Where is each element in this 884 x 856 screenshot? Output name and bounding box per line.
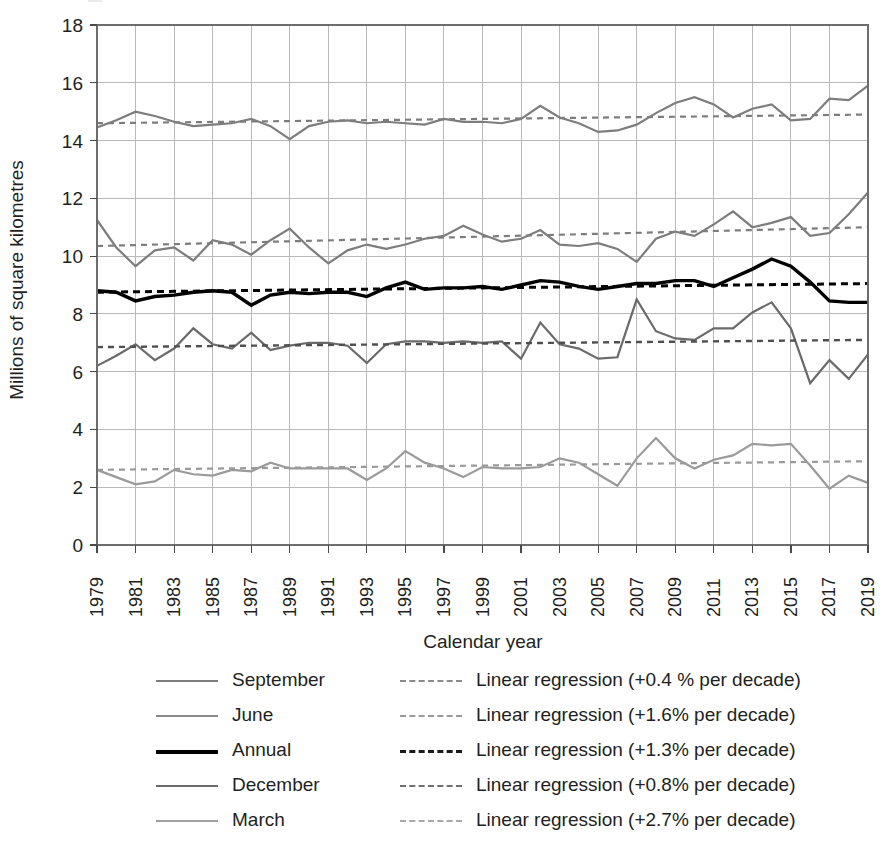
y-tick-label: 2 [72, 477, 83, 498]
x-tick-label: 1991 [318, 577, 338, 617]
legend-series-swatch [150, 673, 222, 687]
x-tick-label: 1983 [164, 577, 184, 617]
x-tick-label: 1979 [87, 577, 107, 617]
legend-series-label: September [222, 669, 384, 691]
x-tick-label: 1997 [434, 577, 454, 617]
x-tick-label: 2013 [742, 577, 762, 617]
legend-trend-swatch [394, 673, 466, 687]
legend-series-label: Annual [222, 739, 384, 761]
legend-trend-label: Linear regression (+0.4 % per decade) [466, 669, 801, 691]
legend-trend-swatch [394, 778, 466, 792]
legend-series-label: June [222, 704, 384, 726]
y-tick-label: 4 [72, 419, 83, 440]
y-tick-label: 14 [62, 131, 84, 152]
axis-ticks-group [90, 25, 868, 553]
y-tick-label: 8 [72, 304, 83, 325]
y-axis-title-text: Millions of square kilometres [6, 160, 28, 400]
x-tick-label: 2019 [858, 577, 878, 617]
x-tick-label: 1981 [126, 577, 146, 617]
x-tick-label: 1995 [395, 577, 415, 617]
y-tick-label: 18 [62, 15, 83, 36]
legend-trend-label: Linear regression (+2.7% per decade) [466, 809, 796, 831]
legend-series-label: March [222, 809, 384, 831]
x-axis-title: Calendar year [97, 631, 869, 653]
legend-row: AnnualLinear regression (+1.3% per decad… [150, 732, 870, 767]
y-tick-label: 16 [62, 73, 83, 94]
legend-trend-label: Linear regression (+0.8% per decade) [466, 774, 796, 796]
legend-trend-swatch [394, 708, 466, 722]
x-tick-label: 2003 [550, 577, 570, 617]
x-tick-label: 2011 [704, 578, 724, 617]
legend-trend-swatch [394, 743, 466, 757]
legend-series-swatch [150, 743, 222, 757]
x-tick-label: 2007 [627, 577, 647, 617]
legend-trend-label: Linear regression (+1.6% per decade) [466, 704, 796, 726]
x-tick-label: 2015 [781, 577, 801, 617]
legend-row: DecemberLinear regression (+0.8% per dec… [150, 767, 870, 802]
y-tick-label: 6 [72, 362, 83, 383]
x-tick-label: 1993 [357, 577, 377, 617]
x-tick-label: 1987 [241, 577, 261, 617]
legend-series-label: December [222, 774, 384, 796]
x-tick-label: 1985 [203, 577, 223, 617]
legend-series-swatch [150, 778, 222, 792]
legend-row: SeptemberLinear regression (+0.4 % per d… [150, 662, 870, 697]
legend-trend-label: Linear regression (+1.3% per decade) [466, 739, 796, 761]
x-tick-label: 1989 [280, 577, 300, 617]
chart-figure: 024681012141618 197919811983198519871989… [0, 0, 884, 856]
legend-row: JuneLinear regression (+1.6% per decade) [150, 697, 870, 732]
x-tick-labels: 1979198119831985198719891991199319951997… [87, 577, 878, 617]
x-tick-label: 1999 [473, 577, 493, 617]
legend-series-swatch [150, 813, 222, 827]
legend-row: MarchLinear regression (+2.7% per decade… [150, 802, 870, 837]
legend-trend-swatch [394, 813, 466, 827]
y-tick-label: 0 [72, 535, 83, 556]
x-tick-label: 2017 [819, 577, 839, 617]
x-tick-label: 2001 [511, 577, 531, 617]
x-tick-label: 2009 [665, 577, 685, 617]
y-tick-label: 12 [62, 188, 83, 209]
x-tick-label: 2005 [588, 577, 608, 617]
chart-legend: SeptemberLinear regression (+0.4 % per d… [150, 662, 870, 837]
y-tick-label: 10 [62, 246, 83, 267]
legend-series-swatch [150, 708, 222, 722]
y-tick-labels: 024681012141618 [62, 15, 84, 556]
chart-plot-area: 024681012141618 197919811983198519871989… [0, 0, 884, 660]
y-axis-title: Millions of square kilometres [0, 0, 34, 560]
